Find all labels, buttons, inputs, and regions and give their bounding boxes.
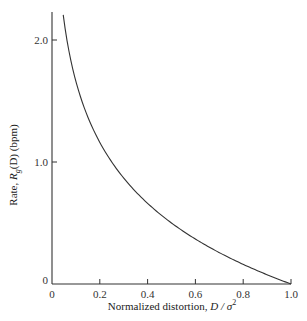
x-tick-label: 0.6: [189, 288, 203, 300]
axes: [52, 12, 291, 284]
rate-distortion-curve: [63, 15, 291, 284]
y-tick-label: 1.0: [34, 156, 48, 168]
x-tick-label: 0.2: [93, 288, 107, 300]
x-tick-label: 0: [49, 288, 55, 300]
rate-distortion-chart: 00.20.40.60.81.001.02.0 Normalized disto…: [0, 0, 307, 321]
x-tick-label: 1.0: [284, 288, 298, 300]
x-tick-label: 0.8: [236, 288, 250, 300]
y-tick-label: 2.0: [34, 34, 48, 46]
y-tick-label: 0: [43, 274, 49, 286]
x-axis-label: Normalized distortion, D / σ2: [108, 298, 236, 312]
y-axis-label: Rate, Rg(D) (bpm): [7, 124, 22, 206]
x-tick-label: 0.4: [141, 288, 155, 300]
